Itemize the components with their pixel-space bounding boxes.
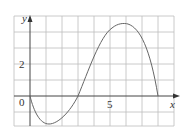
- origin-label: 0: [19, 96, 25, 108]
- y-axis-label: y: [21, 12, 27, 24]
- axes: [14, 17, 176, 126]
- graph: y x 0 5 2: [0, 0, 185, 136]
- x-axis-label: x: [169, 98, 175, 110]
- y-tick-2: 2: [19, 58, 25, 70]
- x-tick-5: 5: [107, 98, 113, 110]
- grid: [14, 16, 174, 126]
